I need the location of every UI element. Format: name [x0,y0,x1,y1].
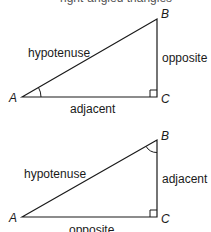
side-label-adjacent: adjacent [162,172,208,186]
right-angle-marker-C [150,90,157,97]
side-label-adjacent: adjacent [70,102,116,116]
clipped-heading: right-angled triangles [60,0,172,5]
side-label-hypotenuse: hypotenuse [28,46,90,60]
vertex-label-C: C [161,212,170,226]
side-label-opposite: opposite [69,223,115,232]
angle-arc-B [146,146,157,152]
triangle-1: A B C hypotenuse opposite adjacent [8,7,208,116]
triangle-2: A B C hypotenuse adjacent opposite [8,129,208,232]
vertex-label-C: C [161,92,170,106]
vertex-label-A: A [8,91,17,105]
vertex-label-B: B [161,129,169,143]
vertex-label-A: A [8,211,17,225]
side-label-opposite: opposite [162,51,208,65]
angle-arc-A [39,88,42,98]
side-label-hypotenuse: hypotenuse [24,167,86,181]
triangle-diagram: right-angled triangles A B C hypotenuse … [0,0,211,232]
right-angle-marker-C [150,210,157,217]
vertex-label-B: B [161,7,169,21]
